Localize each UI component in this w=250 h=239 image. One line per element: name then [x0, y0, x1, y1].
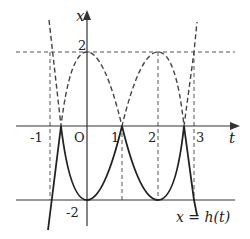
- tick-t-1: 1: [111, 130, 119, 145]
- tick-x-minus-2: -2: [66, 205, 79, 220]
- tick-t-minus-1: -1: [30, 130, 43, 145]
- tick-t-3: 3: [196, 130, 204, 145]
- t-axis-label: t: [229, 129, 236, 147]
- origin-label: O: [74, 130, 85, 145]
- dashed-curve: [49, 20, 197, 126]
- curve-label: x = h(t): [176, 209, 230, 225]
- tick-x-2: 2: [78, 38, 86, 53]
- graph-canvas: x t O -1 1 2 3 2 -2 x = h(t): [0, 0, 250, 239]
- tick-t-2: 2: [148, 130, 156, 145]
- x-axis-label: x: [76, 7, 85, 25]
